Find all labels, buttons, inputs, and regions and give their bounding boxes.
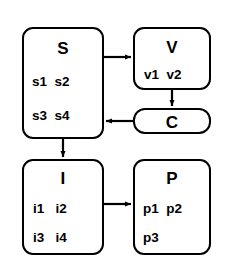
node-i-row-2: i3 i4 xyxy=(33,231,67,245)
node-s-title: S xyxy=(24,40,102,57)
node-v[interactable]: V v1 v2 xyxy=(133,27,211,90)
node-s-row-2: s3 s4 xyxy=(32,109,70,123)
node-v-title: V xyxy=(135,39,209,56)
node-i[interactable]: I i1 i2 i3 i4 xyxy=(22,159,104,255)
node-s-row-1: s1 s2 xyxy=(32,75,70,89)
node-p-row-1: p1 p2 xyxy=(143,202,182,216)
node-p-row-2: p3 xyxy=(143,231,159,245)
diagram-canvas: S s1 s2 s3 s4 V v1 v2 C I i1 i2 i3 i4 P … xyxy=(0,0,230,278)
node-i-title: I xyxy=(24,170,102,187)
node-p[interactable]: P p1 p2 p3 xyxy=(133,159,211,255)
node-c[interactable]: C xyxy=(133,108,211,134)
node-v-row-1: v1 v2 xyxy=(144,68,182,82)
node-p-title: P xyxy=(135,170,209,187)
node-s[interactable]: S s1 s2 s3 s4 xyxy=(22,27,104,139)
node-i-row-1: i1 i2 xyxy=(33,202,67,216)
node-c-title: C xyxy=(135,114,209,131)
